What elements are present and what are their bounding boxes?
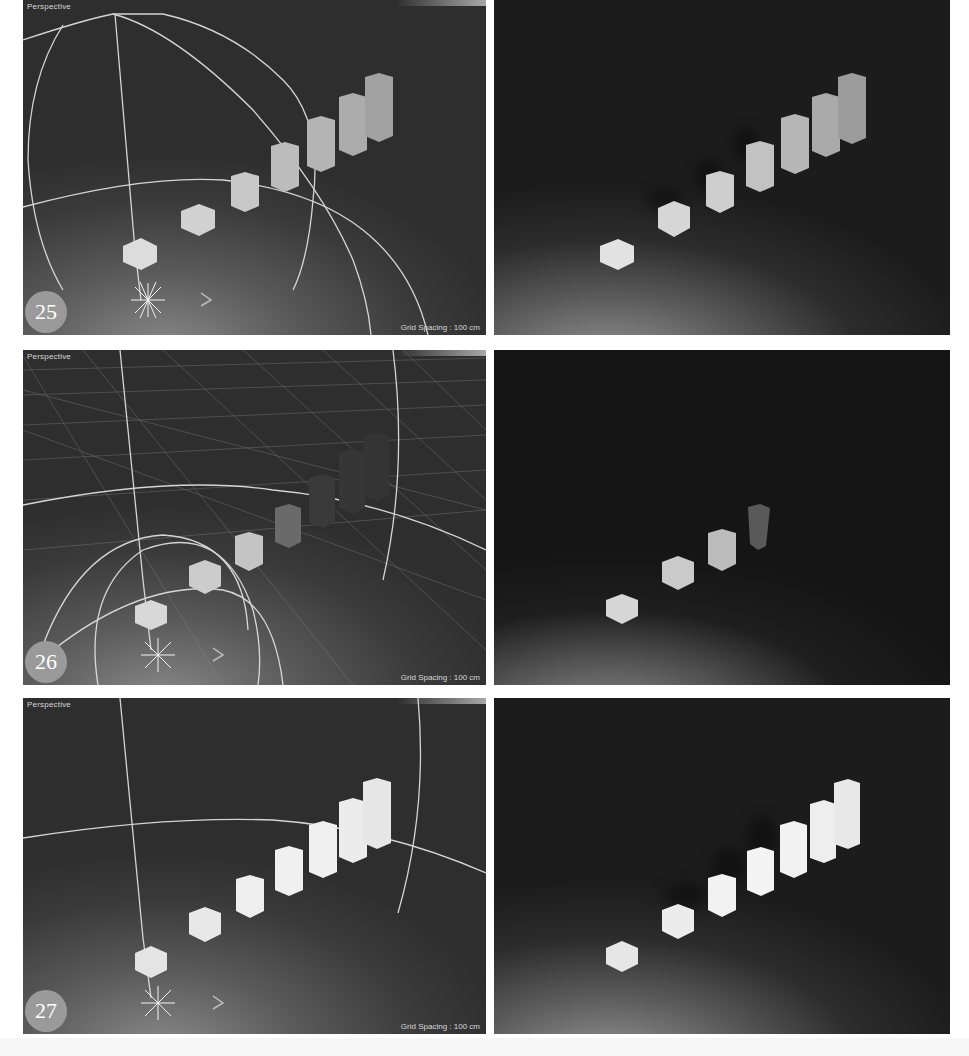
render-scene-26 <box>494 350 950 685</box>
boxes-render-25 <box>600 73 866 270</box>
viewport-scene-26 <box>23 350 486 685</box>
viewport-step-26[interactable]: Perspective Grid Spacing : 100 cm 26 <box>23 350 486 685</box>
light-gizmo-wireframe <box>23 350 486 685</box>
render-scene-25 <box>494 0 950 335</box>
render-step-26 <box>494 350 950 685</box>
viewport-step-27[interactable]: Perspective Grid Spacing : 100 cm 27 <box>23 698 486 1034</box>
step-number-badge: 25 <box>25 291 67 333</box>
viewport-label: Perspective <box>27 352 71 361</box>
grid-spacing-label: Grid Spacing : 100 cm <box>401 323 480 332</box>
render-step-25 <box>494 0 950 335</box>
omni-light-icon <box>131 282 165 318</box>
grid-spacing-label: Grid Spacing : 100 cm <box>401 673 480 682</box>
boxes-render-26 <box>606 504 770 624</box>
render-scene-27 <box>494 698 950 1034</box>
viewport-label: Perspective <box>27 2 71 11</box>
step-number-badge: 27 <box>25 990 67 1032</box>
omni-light-icon <box>141 638 175 672</box>
render-step-27 <box>494 698 950 1034</box>
viewport-label: Perspective <box>27 700 71 709</box>
boxes-27 <box>135 778 391 978</box>
shadows <box>646 127 758 212</box>
viewport-scene-27 <box>23 698 486 1034</box>
target-arrow-icon <box>213 648 223 661</box>
omni-light-icon <box>141 986 175 1020</box>
grid-spacing-label: Grid Spacing : 100 cm <box>401 1022 480 1031</box>
viewport-step-25[interactable]: Perspective Grid Spacing : 100 cm 25 <box>23 0 486 335</box>
target-arrow-icon <box>213 996 223 1009</box>
viewport-grid <box>23 350 486 685</box>
light-gizmo-wireframe <box>23 14 428 335</box>
boxes-25 <box>123 73 393 270</box>
viewport-scene-25 <box>23 0 486 335</box>
light-gizmo-wireframe <box>23 698 486 998</box>
step-number-badge: 26 <box>25 641 67 683</box>
target-arrow-icon <box>201 293 211 306</box>
page-bottom-margin <box>0 1038 969 1056</box>
